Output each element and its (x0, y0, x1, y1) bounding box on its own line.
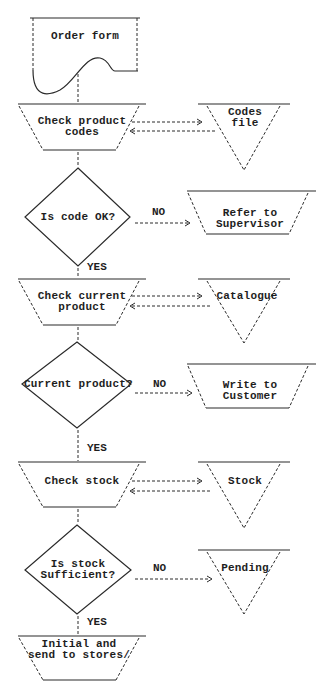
order-form-label: Order form (35, 31, 135, 42)
catalogue-label: Catalogue (207, 291, 287, 302)
check-stock-label: Check stock (22, 476, 142, 487)
write-customer-label: Write to Customer (200, 380, 300, 402)
yes-label-1: YES (87, 262, 107, 273)
yes-label-3: YES (87, 617, 107, 628)
no-label-2: NO (153, 379, 166, 390)
pending-label: Pending (205, 563, 285, 574)
check-current-label: Check current product (22, 291, 142, 313)
current-product-label: Current product? (24, 379, 132, 390)
check-codes-label: Check product codes (22, 116, 142, 138)
is-stock-sufficient-label: Is stock Sufficient? (28, 559, 128, 581)
yes-label-2: YES (87, 443, 107, 454)
stock-label: Stock (205, 476, 285, 487)
initial-send-label: Initial and send to stores/ (18, 639, 140, 661)
no-label-3: NO (153, 563, 166, 574)
flowchart-canvas (0, 0, 328, 691)
no-label-1: NO (152, 207, 165, 218)
is-code-ok-label: Is code OK? (28, 212, 128, 223)
stock-shape (198, 462, 290, 528)
catalogue-shape (198, 279, 290, 343)
pending-shape (198, 550, 290, 614)
codes-file-label: Codes file (205, 107, 285, 129)
refer-supervisor-label: Refer to Supervisor (200, 208, 300, 230)
